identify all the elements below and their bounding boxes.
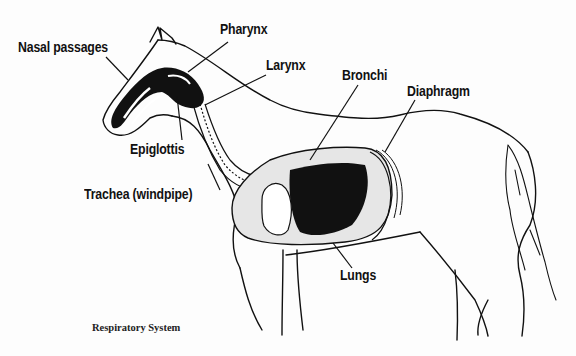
label-lungs: Lungs [340, 266, 376, 283]
label-diaphragm: Diaphragm [407, 82, 470, 99]
front-leg-back [282, 250, 283, 335]
label-epiglottis: Epiglottis [130, 140, 184, 157]
label-nasal-passages: Nasal passages [18, 38, 108, 55]
rump-outline [518, 152, 536, 336]
label-bronchi: Bronchi [342, 66, 387, 83]
label-trachea: Trachea (windpipe) [84, 185, 192, 202]
label-pharynx: Pharynx [220, 20, 267, 37]
back-outline [158, 40, 528, 152]
label-larynx: Larynx [266, 56, 305, 73]
figure-caption: Respiratory System [92, 322, 180, 333]
hind-leg-front [420, 232, 488, 336]
rear-of-front-leg [297, 250, 303, 330]
respiratory-diagram: Nasal passages Pharynx Larynx Epiglottis… [0, 0, 576, 356]
lungs-shape [232, 147, 402, 244]
front-leg-front [240, 268, 262, 330]
hind-leg-inner [455, 270, 458, 340]
